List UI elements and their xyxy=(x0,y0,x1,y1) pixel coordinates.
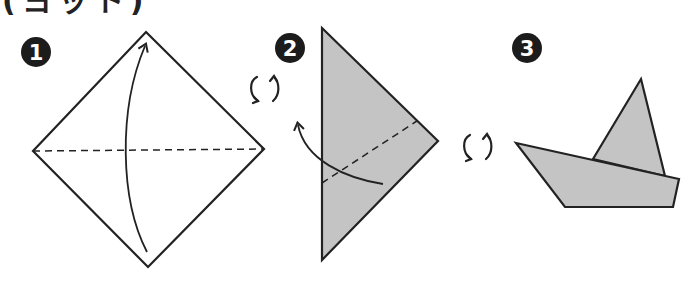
origami-diagram: 1 2 3 xyxy=(0,0,699,282)
triangle-paper xyxy=(322,28,438,260)
step-3-badge: 3 xyxy=(512,33,542,63)
step-2: 2 xyxy=(275,28,438,260)
step-3: 3 xyxy=(512,33,679,207)
step-2-number: 2 xyxy=(283,37,298,61)
step-1: 1 xyxy=(21,32,264,267)
step-1-badge: 1 xyxy=(21,37,51,67)
step-1-number: 1 xyxy=(29,41,44,65)
flip-over-icon xyxy=(464,134,491,161)
flip-over-icon xyxy=(251,76,278,103)
step-2-badge: 2 xyxy=(275,33,305,63)
step-3-number: 3 xyxy=(520,37,535,61)
